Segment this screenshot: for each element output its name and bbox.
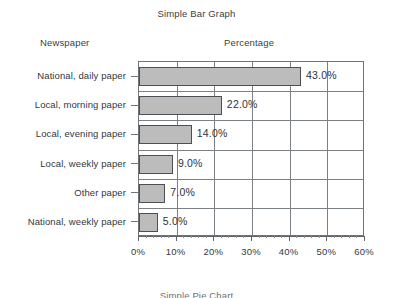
x-axis-tick-label: 30% (231, 246, 271, 257)
x-axis-minor-tick (274, 236, 275, 238)
x-axis-major-tick (289, 236, 290, 241)
x-axis-minor-tick (341, 236, 342, 238)
horizontal-gridline (139, 150, 363, 151)
vertical-gridline (290, 62, 291, 235)
bar (139, 184, 165, 203)
bar-value-label: 14.0% (197, 127, 228, 139)
bar (139, 67, 301, 86)
vertical-gridline (214, 62, 215, 235)
category-label: Local, evening paper (0, 128, 126, 139)
category-tick (131, 76, 138, 77)
category-tick (131, 192, 138, 193)
x-axis-minor-tick (168, 236, 169, 238)
category-label: Local, weekly paper (0, 158, 126, 169)
x-axis-minor-tick (259, 236, 260, 238)
x-axis-minor-tick (191, 236, 192, 238)
x-axis-minor-tick (319, 236, 320, 238)
x-axis-minor-tick (228, 236, 229, 238)
bar (139, 125, 192, 144)
x-axis-tick-label: 50% (306, 246, 346, 257)
x-axis-minor-tick (356, 236, 357, 238)
x-axis-minor-tick (183, 236, 184, 238)
x-axis-minor-tick (304, 236, 305, 238)
bar-value-label: 5.0% (163, 215, 188, 227)
bar (139, 213, 158, 232)
x-axis-minor-tick (296, 236, 297, 238)
page-title-text: Simple Bar Graph (158, 8, 236, 19)
x-axis-tick-label: 40% (269, 246, 309, 257)
category-label: National, daily paper (0, 70, 126, 81)
bar-value-label: 7.0% (170, 186, 195, 198)
category-tick (131, 134, 138, 135)
bar-value-label: 9.0% (178, 157, 203, 169)
next-chart-caption: Simple Pie Chart (0, 290, 393, 298)
x-axis-major-tick (138, 236, 139, 241)
x-axis-minor-tick (146, 236, 147, 238)
category-tick (131, 221, 138, 222)
x-axis-minor-tick (281, 236, 282, 238)
x-axis-tick-label: 0% (118, 246, 158, 257)
x-axis-major-tick (251, 236, 252, 241)
category-label: Other paper (0, 187, 126, 198)
bar (139, 155, 173, 174)
x-axis-tick-label: 20% (193, 246, 233, 257)
column-header-percentage: Percentage (224, 37, 274, 48)
bar-chart-plot-area (138, 61, 364, 236)
bar (139, 96, 222, 115)
x-axis-minor-tick (221, 236, 222, 238)
x-axis-minor-tick (198, 236, 199, 238)
vertical-gridline (327, 62, 328, 235)
x-axis-minor-tick (161, 236, 162, 238)
x-axis-minor-tick (206, 236, 207, 238)
x-axis-minor-tick (153, 236, 154, 238)
horizontal-gridline (139, 120, 363, 121)
x-axis-major-tick (326, 236, 327, 241)
x-axis-major-tick (176, 236, 177, 241)
x-axis-minor-tick (266, 236, 267, 238)
category-tick (131, 163, 138, 164)
x-axis-minor-tick (349, 236, 350, 238)
page-title: Simple Bar Graph (0, 8, 393, 19)
x-axis-minor-tick (334, 236, 335, 238)
x-axis-minor-tick (311, 236, 312, 238)
column-header-newspaper: Newspaper (40, 37, 89, 48)
bar-value-label: 22.0% (227, 98, 258, 110)
x-axis-tick-label: 60% (344, 246, 384, 257)
x-axis-minor-tick (243, 236, 244, 238)
horizontal-gridline (139, 179, 363, 180)
x-axis-tick-label: 10% (156, 246, 196, 257)
category-label: Local, morning paper (0, 99, 126, 110)
x-axis-major-tick (213, 236, 214, 241)
horizontal-gridline (139, 208, 363, 209)
horizontal-gridline (139, 91, 363, 92)
category-label: National, weekly paper (0, 216, 126, 227)
vertical-gridline (252, 62, 253, 235)
x-axis-major-tick (364, 236, 365, 241)
category-tick (131, 105, 138, 106)
x-axis-minor-tick (236, 236, 237, 238)
vertical-gridline (177, 62, 178, 235)
bar-value-label: 43.0% (306, 69, 337, 81)
